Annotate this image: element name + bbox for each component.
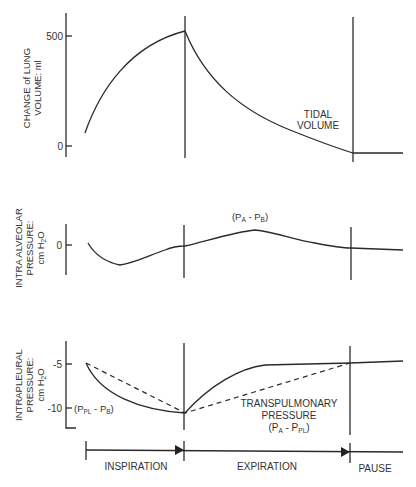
volume-panel: 500 0 CHANGE of LUNG VOLUME: ml TIDAL VO…	[21, 13, 403, 162]
pleural-y-axis	[66, 341, 76, 428]
pleural-y-label: INTRAPLEURAL PRESSURE: cm H2O	[13, 349, 47, 421]
alveolar-y-label: INTRA ALVEOLAR PRESSURE: cm H2O	[13, 208, 47, 288]
tidal-volume-label-1: TIDAL	[304, 109, 333, 120]
volume-inspiration-curve	[85, 31, 185, 133]
svg-text:cm H2O: cm H2O	[35, 368, 47, 401]
volume-y-label: CHANGE of LUNG VOLUME: ml	[21, 48, 43, 128]
svg-text:PRESSURE:: PRESSURE:	[24, 358, 35, 413]
timeline-line	[86, 450, 403, 452]
phase-label-inspiration: INSPIRATION	[104, 461, 167, 472]
volume-tick-label-500: 500	[46, 31, 63, 42]
phase-label-expiration: EXPIRATION	[237, 461, 297, 472]
alveolar-pressure-curve	[88, 230, 403, 265]
ppl-pb-label: (PPL - PB)	[74, 403, 114, 415]
expiration-arrowhead-icon	[341, 447, 350, 457]
alveolar-panel: 0 INTRA ALVEOLAR PRESSURE: cm H2O (PA - …	[13, 208, 403, 288]
svg-text:cm H2O: cm H2O	[35, 231, 47, 264]
svg-text:INTRA ALVEOLAR: INTRA ALVEOLAR	[13, 208, 24, 288]
svg-text:PRESSURE:: PRESSURE:	[24, 221, 35, 276]
pleural-panel: -5 -10 (PPL - PB) INTRAPLEURAL PRESSURE:…	[13, 341, 403, 435]
transpulmonary-label-2: PRESSURE	[261, 410, 316, 421]
inspiration-arrowhead-icon	[175, 445, 184, 455]
svg-text:INTRAPLEURAL: INTRAPLEURAL	[13, 349, 24, 421]
respiratory-cycle-diagram: 500 0 CHANGE of LUNG VOLUME: ml TIDAL VO…	[0, 0, 416, 487]
volume-expiration-curve	[185, 31, 403, 153]
transpulmonary-label-1: TRANSPULMONARY	[240, 398, 337, 409]
pa-pb-label: (PA - PB)	[232, 211, 268, 223]
phase-label-pause: PAUSE	[358, 463, 391, 474]
tidal-volume-label-2: VOLUME	[297, 120, 340, 131]
alveolar-tick-label-0: 0	[56, 240, 62, 251]
pleural-tick-label-minus10: -10	[48, 403, 63, 414]
phase-timeline: INSPIRATION EXPIRATION PAUSE	[86, 441, 403, 474]
volume-tick-label-0: 0	[57, 141, 63, 152]
svg-text:CHANGE of LUNG: CHANGE of LUNG	[21, 48, 32, 128]
pleural-tick-label-minus5: -5	[53, 359, 62, 370]
transpulmonary-label-3: (PA - PPL)	[268, 422, 309, 434]
svg-text:VOLUME: ml: VOLUME: ml	[32, 60, 43, 115]
